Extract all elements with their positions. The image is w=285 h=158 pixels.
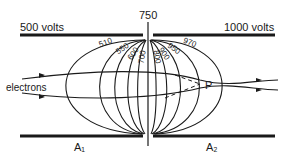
focus-point-label: P bbox=[205, 80, 212, 91]
electrons-label: electrons bbox=[6, 82, 47, 93]
plate-voltage-left: 500 volts bbox=[20, 22, 64, 33]
electron-paths bbox=[22, 72, 278, 98]
plate-label-a1: A₁ bbox=[74, 142, 85, 153]
center-voltage: 750 bbox=[139, 10, 157, 21]
plate-label-a2: A₂ bbox=[206, 142, 218, 153]
arrow-icon bbox=[39, 73, 45, 78]
plate-voltage-right: 1000 volts bbox=[224, 22, 274, 33]
